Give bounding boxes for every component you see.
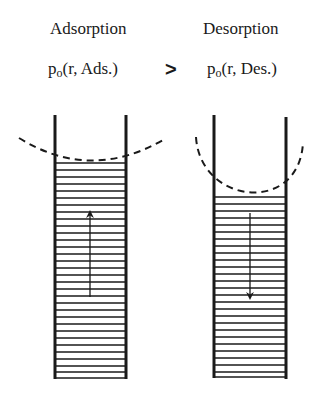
adsorption-meniscus bbox=[19, 138, 163, 161]
adsorption-pore bbox=[19, 115, 163, 379]
pore-diagram bbox=[0, 0, 321, 399]
desorption-pore bbox=[196, 115, 303, 379]
